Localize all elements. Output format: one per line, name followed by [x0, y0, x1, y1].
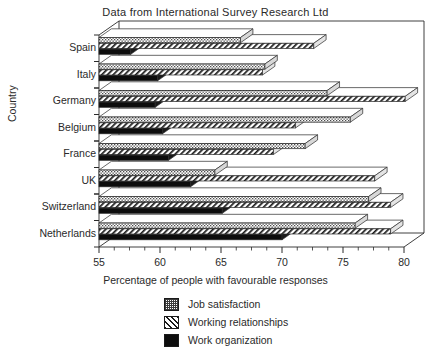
legend-item-label: Job satisfaction — [188, 298, 260, 310]
chart-legend: Job satisfaction Working relationships W… — [164, 296, 288, 350]
solid-black-swatch-icon — [164, 334, 179, 347]
legend-item: Work organization — [164, 332, 288, 348]
chart-container: Data from International Survey Research … — [0, 0, 431, 360]
legend-item-label: Work organization — [188, 334, 272, 346]
legend-item: Working relationships — [164, 314, 288, 330]
dotted-swatch-icon — [164, 298, 179, 311]
legend-item: Job satisfaction — [164, 296, 288, 312]
diagonal-hatch-swatch-icon — [164, 316, 179, 329]
legend-item-label: Working relationships — [188, 316, 288, 328]
